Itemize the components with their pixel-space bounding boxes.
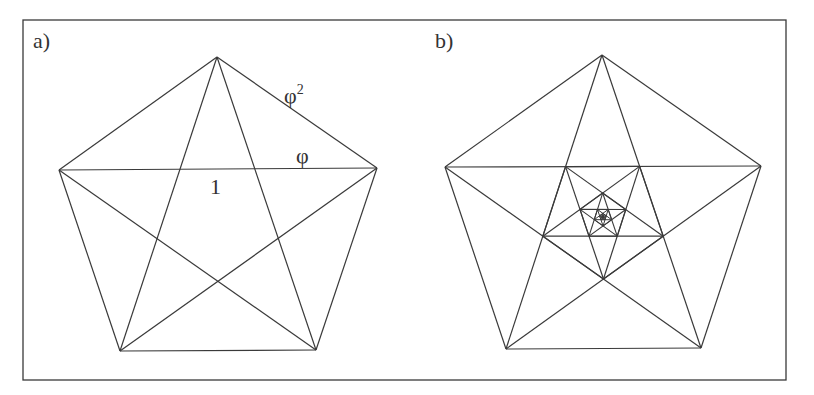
- edge-line: [640, 166, 664, 236]
- edge-line: [59, 170, 316, 350]
- edge-line: [445, 167, 506, 349]
- edge-line: [580, 193, 603, 209]
- figure-frame: [23, 20, 786, 380]
- edge-line: [120, 57, 217, 351]
- golden-ratio-pentagram-figure: a) φ2φ1 b): [0, 0, 814, 395]
- panel-b-recursive-pentagram: b): [435, 28, 761, 349]
- edge-line: [506, 348, 701, 349]
- edge-line: [617, 210, 626, 237]
- edge-line: [445, 55, 602, 167]
- panel-b-label: b): [435, 28, 453, 53]
- panel-a-label: a): [33, 28, 50, 53]
- edge-length-label: φ: [296, 143, 309, 168]
- edge-line: [543, 167, 566, 237]
- edge-line: [701, 166, 761, 348]
- edge-line: [543, 236, 604, 279]
- edge-length-label: 1: [210, 174, 221, 199]
- edge-line: [602, 217, 603, 218]
- edge-line: [217, 57, 316, 350]
- edge-line: [603, 236, 663, 279]
- edge-line: [59, 168, 377, 170]
- edge-line: [316, 168, 377, 350]
- edge-line: [580, 209, 589, 236]
- edge-line: [120, 350, 316, 351]
- edge-length-label: φ2: [284, 82, 304, 108]
- edge-line: [603, 193, 626, 209]
- edge-line: [59, 57, 217, 170]
- edge-line: [120, 168, 377, 351]
- edge-line: [59, 170, 120, 351]
- panel-a-pentagram: a) φ2φ1: [33, 28, 377, 351]
- edge-line: [602, 55, 761, 166]
